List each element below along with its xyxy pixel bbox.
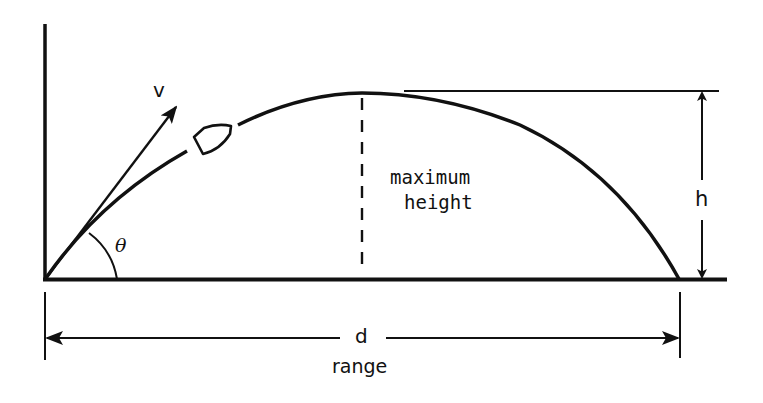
height-label: h [695, 189, 708, 210]
diagram-canvas [0, 0, 763, 403]
max-height-label-line2: height [404, 193, 473, 212]
projectile-icon [194, 125, 231, 154]
velocity-label: v [153, 80, 165, 100]
trajectory-start-segment [46, 151, 187, 278]
projectile-diagram: v θ maximum height h d range [0, 0, 763, 403]
distance-label: d [355, 326, 368, 346]
angle-label: θ [115, 236, 126, 255]
angle-arc [89, 233, 117, 279]
range-label: range [332, 357, 387, 376]
max-height-label-line1: maximum [390, 168, 470, 187]
